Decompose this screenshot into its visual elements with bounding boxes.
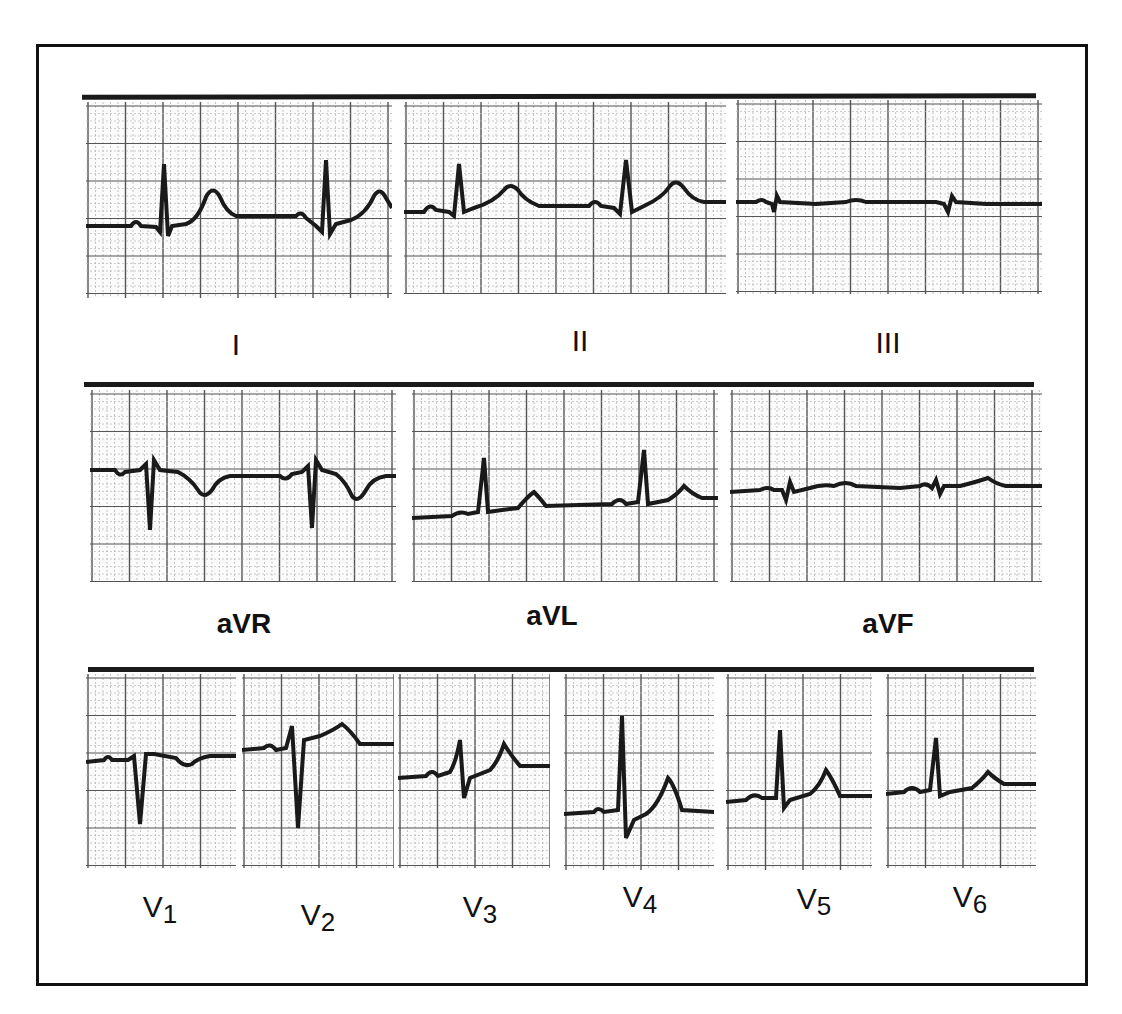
lead-label-V5-sub: 5 [817, 891, 831, 921]
lead-label-V2-sub: 2 [321, 907, 335, 937]
lead-label-V6-sub: 6 [973, 889, 987, 919]
lead-V3-panel [398, 674, 550, 868]
lead-label-I: I [232, 328, 240, 362]
lead-II-trace [404, 102, 726, 294]
lead-V3-trace [398, 674, 550, 868]
lead-label-aVF: aVF [862, 608, 913, 640]
lead-I-trace [86, 102, 392, 298]
lead-label-V5: V5 [797, 882, 831, 916]
lead-aVL-trace [412, 390, 718, 582]
lead-V1-panel [86, 674, 236, 868]
lead-label-aVR: aVR [217, 608, 271, 640]
lead-III-panel [736, 100, 1042, 294]
lead-aVF-panel [730, 390, 1042, 582]
lead-label-III: III [875, 326, 900, 360]
lead-V6-panel [886, 674, 1036, 868]
row-3-bar [88, 667, 1034, 672]
lead-label-V3-sub: 3 [483, 899, 497, 929]
lead-aVR-panel [90, 390, 396, 582]
lead-V2-panel [242, 674, 394, 868]
lead-aVF-trace [730, 390, 1042, 582]
lead-label-V3-main: V [463, 890, 483, 923]
lead-label-II: II [572, 324, 589, 358]
lead-label-V2: V2 [301, 898, 335, 932]
lead-label-V4: V4 [623, 880, 657, 914]
lead-V2-trace [242, 674, 394, 868]
lead-V4-panel [564, 674, 714, 870]
lead-label-V6-main: V [953, 880, 973, 913]
lead-label-V3: V3 [463, 890, 497, 924]
lead-label-aVL: aVL [526, 600, 577, 632]
lead-label-V6: V6 [953, 880, 987, 914]
lead-label-V4-main: V [623, 880, 643, 913]
lead-label-V2-main: V [301, 898, 321, 931]
lead-II-panel [404, 102, 726, 294]
lead-label-V4-sub: 4 [643, 889, 657, 919]
lead-V5-trace [726, 674, 872, 870]
lead-label-V1-main: V [143, 890, 163, 923]
lead-V1-trace [86, 674, 236, 868]
row-2-bar [84, 382, 1034, 387]
lead-label-V5-main: V [797, 882, 817, 915]
lead-label-V1-sub: 1 [163, 899, 177, 929]
lead-V4-trace [564, 674, 714, 870]
lead-V6-trace [886, 674, 1036, 868]
lead-aVL-panel [412, 390, 718, 582]
lead-aVR-trace [90, 390, 396, 582]
lead-III-trace [736, 100, 1042, 294]
lead-V5-panel [726, 674, 872, 870]
lead-label-V1: V1 [143, 890, 177, 924]
lead-I-panel [86, 102, 392, 298]
